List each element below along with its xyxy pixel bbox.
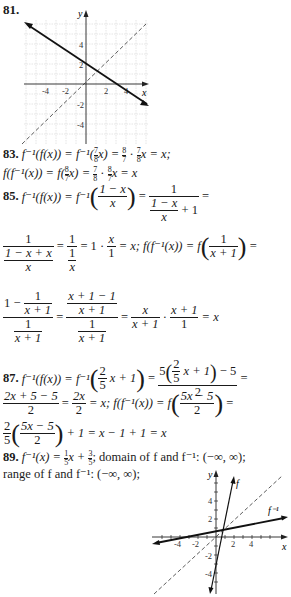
graph-81: y x -4 -2 2 4 4 2 -2 -4 bbox=[22, 8, 150, 146]
x-axis-label: x bbox=[141, 87, 147, 98]
svg-text:4: 4 bbox=[79, 40, 84, 50]
problem-87-line-2: 2x + 5 − 52 = 2x2 = x; f(f⁻¹(x)) = f(5x … bbox=[3, 390, 233, 417]
problem-number-85: 85. bbox=[3, 189, 19, 203]
problem-number-87: 87. bbox=[3, 371, 19, 385]
y-axis-arrow-icon bbox=[84, 10, 89, 17]
problem-number-83: 83. bbox=[3, 147, 19, 161]
finv-arrow-right-icon bbox=[281, 516, 288, 521]
dashed-line-y-equals-x bbox=[154, 476, 282, 594]
problem-number-81: 81. bbox=[3, 2, 19, 18]
svg-text:2: 2 bbox=[208, 514, 212, 524]
graph-89: y x -4 -2 2 4 4 2 -2 -4 f f⁻¹ bbox=[150, 466, 291, 597]
problem-85-line-1: 85. f⁻¹(f(x)) = f⁻¹(1 − xx) = 11 − xx + … bbox=[3, 183, 209, 224]
x-axis-arrow-icon bbox=[142, 82, 149, 87]
problem-83-line-1: 83. f⁻¹(f(x)) = f⁻¹(78x) = 87 · 78x = x; bbox=[3, 146, 171, 164]
x-axis-label: x bbox=[281, 541, 287, 552]
y-axis-label: y bbox=[207, 469, 213, 480]
problem-85-line-2: 11 − x + xx = 11x = 1 · x1 = x; f(f⁻¹(x)… bbox=[3, 233, 257, 274]
f-label: f bbox=[236, 478, 240, 489]
svg-text:4: 4 bbox=[208, 496, 213, 506]
f-inverse-label: f⁻¹ bbox=[268, 505, 279, 516]
svg-text:4: 4 bbox=[249, 539, 254, 549]
finv-arrow-left-icon bbox=[152, 540, 160, 545]
problem-87-line-3: 25(5x − 52) + 1 = x − 1 + 1 = x bbox=[3, 420, 167, 447]
svg-text:2: 2 bbox=[231, 539, 235, 549]
problem-85-line-3: 1 − 1x + 11x + 1 = x + 1 − 1x + 11x + 1 … bbox=[3, 290, 219, 346]
svg-text:-2: -2 bbox=[205, 551, 212, 561]
svg-text:-2: -2 bbox=[62, 86, 69, 96]
svg-text:-4: -4 bbox=[77, 120, 85, 130]
y-axis-arrow-icon bbox=[214, 470, 219, 477]
x-axis-arrow-icon bbox=[281, 535, 288, 540]
f-arrow-down-icon bbox=[209, 587, 214, 594]
svg-text:-4: -4 bbox=[174, 539, 182, 549]
problem-83-line-2: f(f⁻¹(x)) = f(87x) = 78 · 87x = x bbox=[3, 165, 137, 183]
y-axis-label: y bbox=[77, 8, 83, 19]
function-f-line bbox=[211, 481, 233, 590]
svg-text:2: 2 bbox=[104, 86, 108, 96]
problem-89-line-1: 89. f⁻¹(x) = 15x + 35; domain of f and f… bbox=[3, 449, 246, 467]
problem-number-89: 89. bbox=[3, 450, 19, 464]
svg-text:-4: -4 bbox=[42, 86, 50, 96]
svg-text:-4: -4 bbox=[205, 569, 213, 579]
f-arrow-up-icon bbox=[231, 476, 236, 484]
function-f-inverse-line bbox=[156, 518, 284, 543]
svg-text:-2: -2 bbox=[77, 100, 84, 110]
svg-text:-2: -2 bbox=[192, 539, 199, 549]
problem-89-line-2: range of f and f⁻¹: (−∞, ∞); bbox=[3, 466, 140, 482]
